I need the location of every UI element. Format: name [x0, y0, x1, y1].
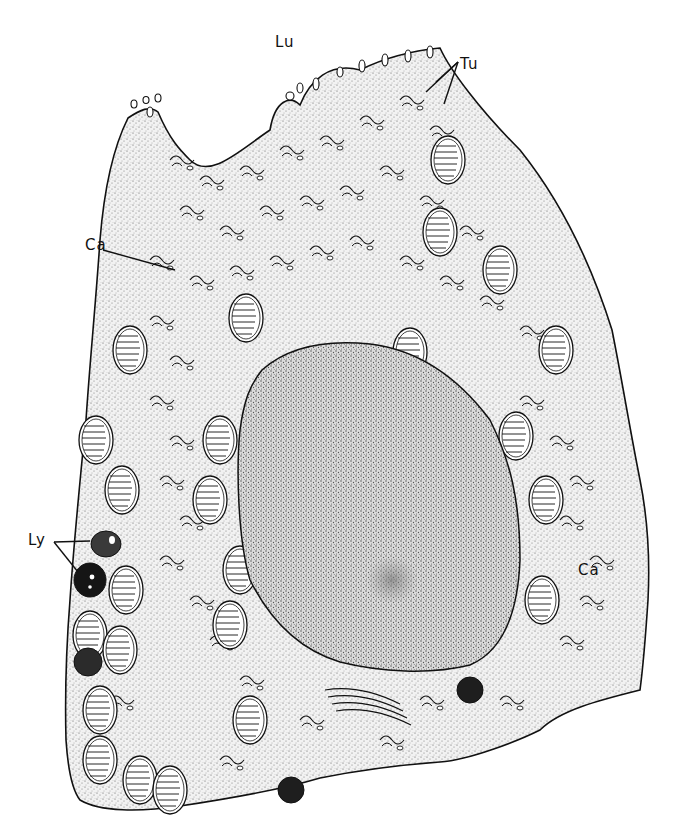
- label-tubulovesicles: Tu: [460, 57, 478, 72]
- label-lysosome: Ly: [28, 533, 46, 548]
- label-lumen: Lu: [275, 35, 295, 50]
- cell-illustration: [0, 0, 676, 836]
- label-canaliculus-left: Ca: [85, 238, 107, 253]
- label-canaliculus-right: Ca: [578, 563, 600, 578]
